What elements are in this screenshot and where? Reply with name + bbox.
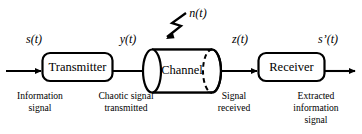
received-caption: Signal received bbox=[218, 90, 251, 113]
channel-left-cap bbox=[143, 50, 161, 93]
transmitted-caption: Chaotic signal transmitted bbox=[98, 90, 153, 113]
channel-label: Channel bbox=[161, 63, 203, 77]
signal-label-n: n(t) bbox=[189, 6, 206, 20]
transmitted-caption-line-1: Chaotic signal bbox=[98, 90, 153, 101]
block-diagram: Transmitter Channel bbox=[0, 0, 362, 134]
input-caption-line-1: Information bbox=[17, 90, 63, 101]
output-caption: Extracted information signal bbox=[293, 90, 338, 125]
received-caption-line-2: received bbox=[218, 102, 251, 113]
diagram-canvas: Transmitter Channel bbox=[0, 0, 362, 134]
received-caption-line-1: Signal bbox=[222, 90, 247, 101]
channel-block: Channel bbox=[143, 50, 221, 93]
output-caption-line-3: signal bbox=[305, 114, 328, 125]
output-caption-line-2: information bbox=[293, 102, 338, 113]
input-caption: Information signal bbox=[17, 90, 63, 113]
noise-arrow bbox=[166, 13, 186, 39]
signal-label-s-prime: s’(t) bbox=[318, 32, 338, 46]
transmitted-caption-line-2: transmitted bbox=[104, 102, 147, 113]
signal-label-s: s(t) bbox=[26, 32, 42, 46]
signal-label-z: z(t) bbox=[231, 32, 248, 46]
transmitter-label: Transmitter bbox=[49, 60, 108, 74]
signal-label-y: y(t) bbox=[119, 32, 137, 46]
output-caption-line-1: Extracted bbox=[298, 90, 335, 101]
input-caption-line-2: signal bbox=[29, 102, 52, 113]
receiver-label: Receiver bbox=[269, 60, 314, 74]
